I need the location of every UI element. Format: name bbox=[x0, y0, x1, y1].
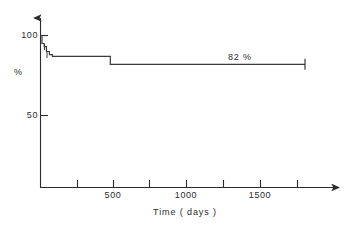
plateau-percent-label: 82 % bbox=[228, 52, 252, 62]
x-tick-label-500: 500 bbox=[93, 190, 133, 200]
x-axis-title: Time ( days ) bbox=[125, 207, 245, 217]
y-axis-title: % bbox=[14, 67, 22, 77]
x-tick-label-1000: 1000 bbox=[166, 190, 206, 200]
y-tick-label-50: 50 bbox=[14, 110, 38, 120]
survival-step-curve bbox=[41, 36, 306, 65]
x-axis-ticks bbox=[78, 180, 298, 188]
survival-curve-figure: 100 50 % 500 1000 1500 Time ( days ) 82 … bbox=[0, 0, 354, 228]
y-tick-label-100: 100 bbox=[14, 30, 38, 40]
x-tick-label-1500: 1500 bbox=[240, 190, 280, 200]
